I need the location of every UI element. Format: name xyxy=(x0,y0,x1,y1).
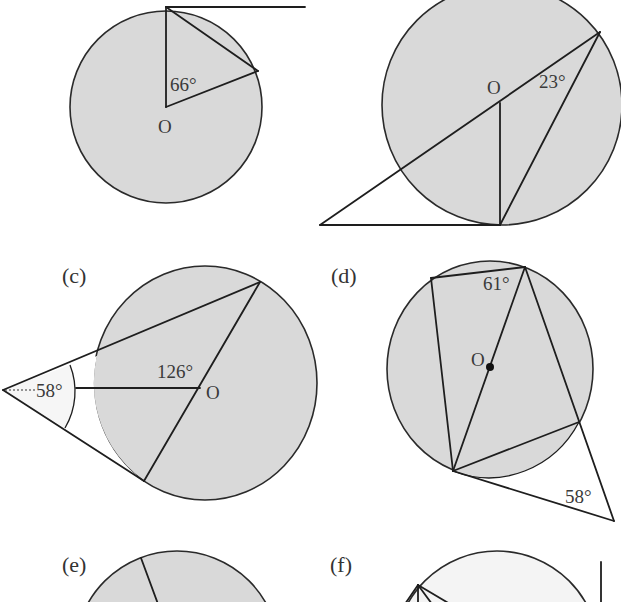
panel-c-label: (c) xyxy=(62,263,86,288)
center-label-o-b: O xyxy=(487,77,501,98)
center-label-o-c: O xyxy=(206,382,220,403)
panel-a: (a) 66° O xyxy=(70,0,305,203)
circle-e xyxy=(75,551,279,602)
center-label-o-a: O xyxy=(158,116,172,137)
panel-d-label: (d) xyxy=(331,263,357,288)
panel-b: (b) O 23° xyxy=(320,0,621,225)
circle-theorems-figure: (a) 66° O (b) O 23° (c) xyxy=(0,0,621,602)
angle-label-61: 61° xyxy=(483,273,510,294)
panel-f-label: (f) xyxy=(330,552,352,577)
panel-e-label: (e) xyxy=(62,552,86,577)
angle-label-126: 126° xyxy=(157,361,193,382)
circle-c xyxy=(93,266,317,500)
center-label-o-d: O xyxy=(471,349,485,370)
panel-f: (f) xyxy=(330,551,601,602)
angle-label-58-c: 58° xyxy=(36,380,63,401)
angle-label-66: 66° xyxy=(170,74,197,95)
panel-c: (c) 58° 126° O xyxy=(3,263,317,500)
center-dot-d xyxy=(486,363,494,371)
angle-label-23: 23° xyxy=(539,71,566,92)
circle-b xyxy=(382,0,621,225)
panel-d: (d) O 61° 58° xyxy=(331,261,614,521)
panel-e: (e) xyxy=(62,551,279,602)
angle-label-58-d: 58° xyxy=(565,486,592,507)
